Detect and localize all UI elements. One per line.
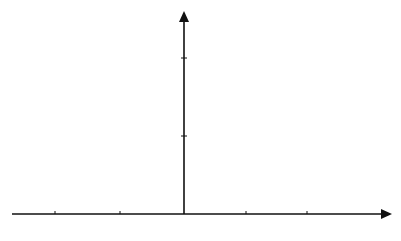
x-axis-arrow-icon (381, 209, 392, 219)
gaussian-chart (0, 0, 401, 241)
y-axis-arrow-icon (179, 11, 189, 22)
